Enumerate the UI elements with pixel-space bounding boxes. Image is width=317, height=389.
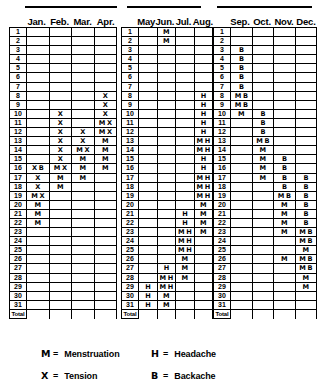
- symptom-cell[interactable]: M: [157, 37, 176, 46]
- symptom-cell[interactable]: B: [295, 191, 317, 200]
- symptom-cell[interactable]: [231, 228, 253, 237]
- symptom-cell[interactable]: M: [231, 109, 253, 118]
- symptom-cell[interactable]: [176, 191, 195, 200]
- symptom-cell[interactable]: M: [72, 155, 95, 164]
- symptom-cell[interactable]: [94, 200, 117, 209]
- symptom-cell[interactable]: [72, 46, 95, 55]
- symptom-cell[interactable]: M: [194, 228, 213, 237]
- symptom-cell[interactable]: [94, 228, 117, 237]
- symptom-cell[interactable]: [194, 246, 213, 255]
- symptom-cell[interactable]: [295, 64, 317, 73]
- symptom-cell[interactable]: [157, 146, 176, 155]
- symptom-cell[interactable]: [252, 55, 274, 64]
- symptom-cell[interactable]: [252, 73, 274, 82]
- symptom-cell[interactable]: [49, 255, 72, 264]
- symptom-cell[interactable]: [252, 273, 274, 282]
- symptom-cell[interactable]: [274, 28, 296, 37]
- symptom-cell[interactable]: H: [194, 109, 213, 118]
- symptom-cell[interactable]: [194, 273, 213, 282]
- symptom-cell[interactable]: [295, 164, 317, 173]
- symptom-cell[interactable]: [49, 218, 72, 227]
- total-cell[interactable]: [231, 309, 253, 319]
- symptom-cell[interactable]: [94, 46, 117, 55]
- symptom-cell[interactable]: H: [176, 209, 195, 218]
- symptom-cell[interactable]: [72, 109, 95, 118]
- symptom-cell[interactable]: M X: [94, 128, 117, 137]
- symptom-cell[interactable]: [176, 73, 195, 82]
- symptom-cell[interactable]: [231, 282, 253, 291]
- symptom-cell[interactable]: [176, 300, 195, 309]
- symptom-cell[interactable]: [94, 82, 117, 91]
- symptom-cell[interactable]: [176, 146, 195, 155]
- symptom-cell[interactable]: M H: [157, 273, 176, 282]
- symptom-cell[interactable]: M: [295, 246, 317, 255]
- symptom-cell[interactable]: [139, 191, 158, 200]
- symptom-cell[interactable]: [72, 246, 95, 255]
- symptom-cell[interactable]: H: [194, 155, 213, 164]
- symptom-cell[interactable]: M: [274, 200, 296, 209]
- symptom-cell[interactable]: [27, 237, 50, 246]
- symptom-cell[interactable]: [72, 264, 95, 273]
- symptom-cell[interactable]: [157, 100, 176, 109]
- symptom-cell[interactable]: [252, 255, 274, 264]
- symptom-cell[interactable]: [176, 37, 195, 46]
- symptom-cell[interactable]: [274, 118, 296, 127]
- symptom-cell[interactable]: [194, 264, 213, 273]
- symptom-cell[interactable]: [94, 209, 117, 218]
- symptom-cell[interactable]: [231, 155, 253, 164]
- symptom-cell[interactable]: [27, 264, 50, 273]
- symptom-cell[interactable]: [231, 173, 253, 182]
- symptom-cell[interactable]: [49, 46, 72, 55]
- symptom-cell[interactable]: X: [72, 137, 95, 146]
- symptom-cell[interactable]: [295, 118, 317, 127]
- symptom-cell[interactable]: [49, 291, 72, 300]
- symptom-cell[interactable]: [94, 237, 117, 246]
- symptom-cell[interactable]: [295, 46, 317, 55]
- symptom-cell[interactable]: [274, 64, 296, 73]
- symptom-cell[interactable]: [139, 55, 158, 64]
- symptom-cell[interactable]: [231, 300, 253, 309]
- symptom-cell[interactable]: [252, 46, 274, 55]
- symptom-cell[interactable]: [231, 291, 253, 300]
- symptom-cell[interactable]: [274, 55, 296, 64]
- symptom-cell[interactable]: M: [274, 255, 296, 264]
- symptom-cell[interactable]: [252, 100, 274, 109]
- symptom-cell[interactable]: [94, 173, 117, 182]
- symptom-cell[interactable]: [49, 209, 72, 218]
- symptom-cell[interactable]: [139, 273, 158, 282]
- symptom-cell[interactable]: [176, 200, 195, 209]
- symptom-cell[interactable]: M H: [176, 246, 195, 255]
- symptom-cell[interactable]: [72, 291, 95, 300]
- symptom-cell[interactable]: [94, 255, 117, 264]
- symptom-cell[interactable]: [157, 118, 176, 127]
- symptom-cell[interactable]: [139, 146, 158, 155]
- symptom-cell[interactable]: [252, 209, 274, 218]
- symptom-cell[interactable]: [139, 209, 158, 218]
- total-cell[interactable]: [157, 309, 176, 319]
- symptom-cell[interactable]: [27, 82, 50, 91]
- symptom-cell[interactable]: [231, 209, 253, 218]
- symptom-cell[interactable]: X: [49, 109, 72, 118]
- symptom-cell[interactable]: M: [252, 173, 274, 182]
- symptom-cell[interactable]: M: [157, 28, 176, 37]
- symptom-cell[interactable]: [157, 255, 176, 264]
- symptom-cell[interactable]: [49, 73, 72, 82]
- symptom-cell[interactable]: M: [72, 164, 95, 173]
- symptom-cell[interactable]: M: [49, 173, 72, 182]
- symptom-cell[interactable]: B: [295, 200, 317, 209]
- total-cell[interactable]: [94, 309, 117, 319]
- symptom-cell[interactable]: [274, 137, 296, 146]
- symptom-cell[interactable]: M B: [231, 91, 253, 100]
- symptom-cell[interactable]: [139, 246, 158, 255]
- symptom-cell[interactable]: [157, 109, 176, 118]
- symptom-cell[interactable]: B: [252, 109, 274, 118]
- symptom-cell[interactable]: [139, 82, 158, 91]
- symptom-cell[interactable]: [139, 237, 158, 246]
- symptom-cell[interactable]: M: [194, 200, 213, 209]
- symptom-cell[interactable]: [274, 73, 296, 82]
- symptom-cell[interactable]: [94, 28, 117, 37]
- symptom-cell[interactable]: H: [194, 164, 213, 173]
- symptom-cell[interactable]: [27, 28, 50, 37]
- symptom-cell[interactable]: [252, 246, 274, 255]
- symptom-cell[interactable]: H: [194, 100, 213, 109]
